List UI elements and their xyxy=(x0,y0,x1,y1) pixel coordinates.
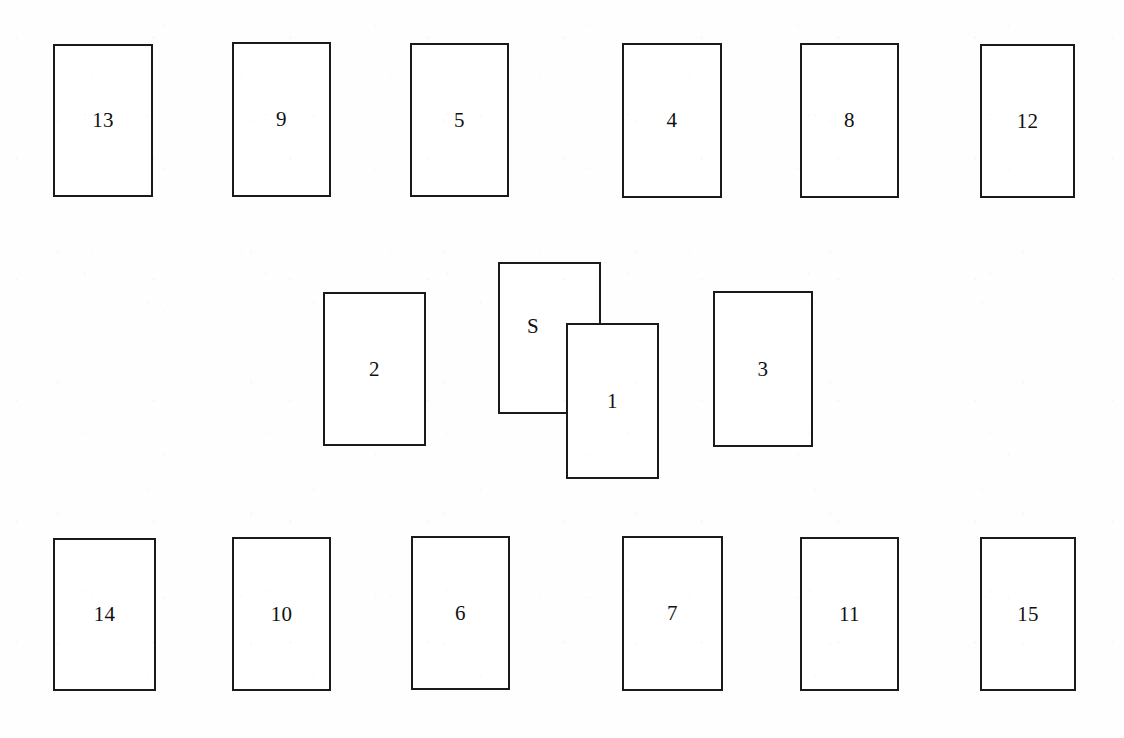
card-label: 14 xyxy=(94,604,116,625)
card-12[interactable]: 12 xyxy=(980,44,1075,198)
card-5[interactable]: 5 xyxy=(410,43,509,197)
card-label: 12 xyxy=(1017,111,1039,132)
card-label: 11 xyxy=(839,604,860,625)
card-4[interactable]: 4 xyxy=(622,43,722,198)
card-label: 8 xyxy=(844,110,855,131)
card-label: 2 xyxy=(369,359,380,380)
card-2[interactable]: 2 xyxy=(323,292,426,446)
card-7[interactable]: 7 xyxy=(622,536,723,691)
card-14[interactable]: 14 xyxy=(53,538,156,691)
card-label: 6 xyxy=(455,603,466,624)
card-label: 3 xyxy=(758,359,769,380)
diagram-canvas: 139548122S131410671115 xyxy=(0,0,1124,738)
card-8[interactable]: 8 xyxy=(800,43,899,198)
card-9[interactable]: 9 xyxy=(232,42,331,197)
card-10[interactable]: 10 xyxy=(232,537,331,691)
card-label: S xyxy=(500,264,539,337)
card-label: 15 xyxy=(1017,604,1039,625)
card-label: 1 xyxy=(607,391,618,412)
card-6[interactable]: 6 xyxy=(411,536,510,690)
card-15[interactable]: 15 xyxy=(980,537,1076,691)
card-label: 5 xyxy=(454,110,465,131)
card-3[interactable]: 3 xyxy=(713,291,813,447)
card-label: 9 xyxy=(276,109,287,130)
card-label: 7 xyxy=(667,603,678,624)
card-label: 10 xyxy=(271,604,293,625)
card-11[interactable]: 11 xyxy=(800,537,899,691)
card-label: 13 xyxy=(92,110,114,131)
card-13[interactable]: 13 xyxy=(53,44,153,197)
card-label: 4 xyxy=(667,110,678,131)
card-1[interactable]: 1 xyxy=(566,323,659,479)
